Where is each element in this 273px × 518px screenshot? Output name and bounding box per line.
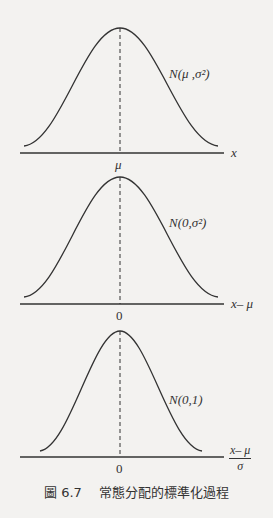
curve-3 <box>40 331 202 451</box>
center-label-1: μ <box>115 157 122 173</box>
axis-label-3-numerator: x– μ <box>229 443 251 459</box>
curve-2 <box>24 177 218 297</box>
normal-curves-diagram <box>0 0 273 518</box>
curve-1 <box>24 28 218 146</box>
figure: N(μ ,σ²) μ x N(0,σ²) 0 x– μ N(0,1) 0 x– … <box>0 0 273 518</box>
dist-label-3: N(0,1) <box>169 392 203 408</box>
axis-label-3-denominator: σ <box>229 459 251 474</box>
figure-caption: 圖 6.7 常態分配的標準化過程 <box>0 482 273 501</box>
axis-label-3-fraction: x– μ σ <box>229 443 251 474</box>
dist-label-1: N(μ ,σ²) <box>169 66 210 82</box>
center-label-2: 0 <box>116 308 123 324</box>
dist-label-2: N(0,σ²) <box>169 215 206 231</box>
axis-label-2: x– μ <box>231 296 253 312</box>
center-label-3: 0 <box>116 461 123 477</box>
axis-label-1: x <box>231 145 237 161</box>
